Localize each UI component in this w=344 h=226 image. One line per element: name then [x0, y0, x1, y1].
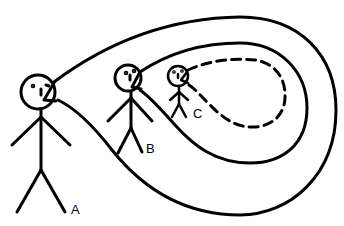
figure-b-eye-right: [133, 70, 135, 72]
figure-c-arm-left: [170, 92, 179, 100]
figure-a-eye-left: [32, 85, 34, 87]
figure-a: [12, 75, 70, 212]
figure-b-label: B: [146, 142, 155, 155]
figure-a-leg-left: [17, 170, 41, 212]
figure-c: [168, 66, 188, 117]
figure-b-arm-right: [131, 98, 152, 121]
figure-a-arm-right: [41, 117, 70, 145]
figure-b: [108, 65, 152, 153]
figure-b-leg-left: [118, 128, 131, 153]
figure-c-leg-left: [172, 104, 179, 117]
diagram-svg: [0, 0, 344, 226]
figure-c-eye-right: [181, 70, 182, 71]
figure-b-arm-left: [108, 98, 131, 121]
figure-c-label: C: [193, 107, 202, 120]
figure-a-eye-right: [46, 85, 49, 86]
figure-a-label: A: [71, 203, 80, 216]
inner-loop-c: [188, 59, 285, 127]
diagram-canvas: A B C: [0, 0, 344, 226]
figure-a-arm-left: [12, 117, 41, 145]
figure-c-arm-right: [179, 92, 188, 100]
figure-a-leg-right: [41, 170, 65, 212]
figure-b-eye-left: [125, 72, 127, 74]
figure-b-leg-right: [131, 128, 142, 152]
figure-c-leg-right: [179, 104, 186, 117]
figure-c-eye-left: [173, 71, 174, 72]
